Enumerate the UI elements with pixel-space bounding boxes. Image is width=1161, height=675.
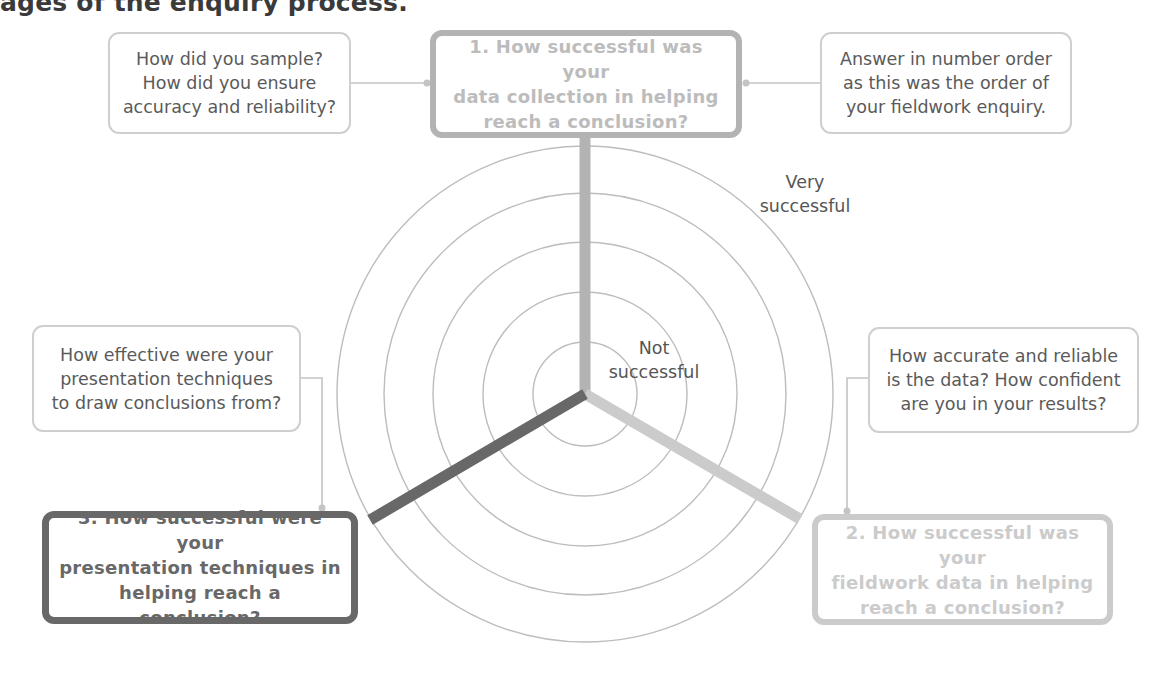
axis-spoke-2: [585, 394, 800, 519]
note-order: Answer in number order as this was the o…: [820, 32, 1072, 134]
connector-accuracy: [847, 378, 868, 511]
connector-presentation: [300, 378, 322, 508]
scale-label-not-successful: Not successful: [608, 336, 700, 384]
note-presentation: How effective were your presentation tec…: [32, 325, 301, 432]
note-accuracy: How accurate and reliable is the data? H…: [868, 327, 1139, 433]
scale-label-very-successful: Very successful: [755, 170, 855, 218]
question-3-box: 3. How successful were your presentation…: [42, 511, 358, 624]
connector-dot-icon: [743, 80, 750, 87]
question-1-box: 1. How successful was your data collecti…: [430, 30, 742, 138]
question-2-box: 2. How successful was your fieldwork dat…: [812, 514, 1113, 625]
note-sampling: How did you sample? How did you ensure a…: [108, 32, 351, 134]
